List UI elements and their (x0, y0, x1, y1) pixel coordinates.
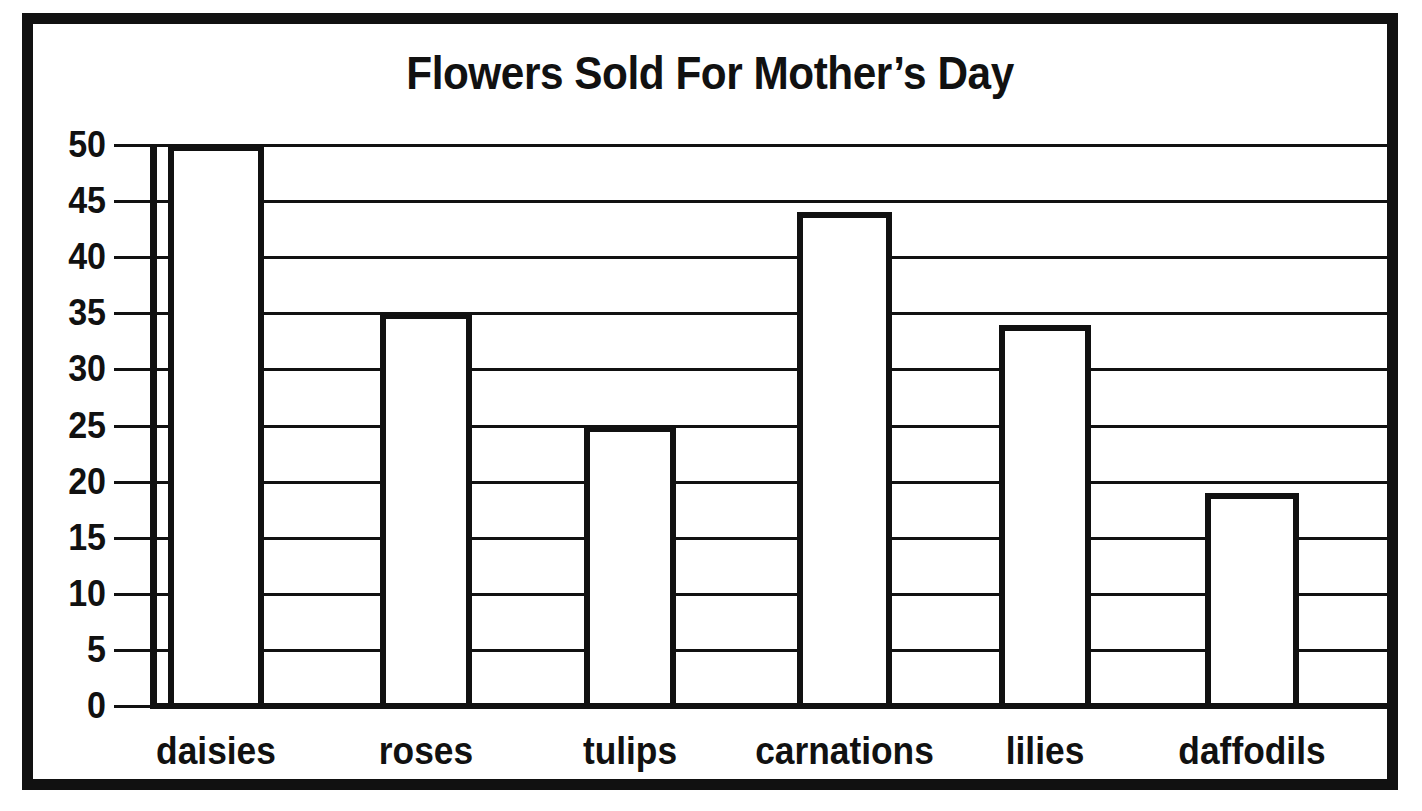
y-axis-tick-label: 35 (34, 294, 106, 331)
y-axis-tick-label: 45 (34, 182, 106, 219)
y-axis-tick-label: 20 (34, 463, 106, 500)
y-axis-tick-label: 15 (34, 519, 106, 556)
bar-roses (380, 313, 472, 709)
y-axis-line (150, 145, 157, 709)
y-axis-tick-label: 5 (34, 631, 106, 668)
gridline (150, 312, 1387, 315)
y-axis-tick (114, 593, 150, 596)
bar-daisies (168, 145, 264, 709)
bar-tulips (584, 426, 676, 710)
y-axis-tick (114, 649, 150, 652)
x-axis-label-lilies: lilies (937, 732, 1153, 770)
y-axis-tick-label: 10 (34, 575, 106, 612)
gridline (150, 425, 1387, 428)
x-axis-label-daisies: daisies (106, 732, 325, 770)
x-axis-baseline (150, 703, 1387, 709)
y-axis-tick (114, 368, 150, 371)
y-axis-tick (114, 200, 150, 203)
y-axis-tick (114, 537, 150, 540)
y-axis-tick-label: 25 (34, 407, 106, 444)
x-axis-label-roses: roses (318, 732, 534, 770)
y-axis-tick (114, 144, 150, 147)
y-axis-tick-label: 0 (34, 687, 106, 724)
plot-area: 05101520253035404550 daisiesrosestulipsc… (33, 24, 1387, 779)
x-axis-label-daffodils: daffodils (1143, 732, 1361, 770)
gridline (150, 593, 1387, 596)
gridline (150, 481, 1387, 484)
y-axis-tick (114, 256, 150, 259)
gridline (150, 256, 1387, 259)
y-axis-tick-label: 50 (34, 126, 106, 163)
y-axis-tick-label: 40 (34, 238, 106, 275)
y-axis-tick (114, 481, 150, 484)
bar-daffodils (1205, 493, 1299, 709)
bar-carnations (797, 212, 892, 709)
y-axis-tick-label: 30 (34, 350, 106, 387)
gridline (150, 144, 1387, 147)
y-axis-tick (114, 705, 150, 708)
gridline (150, 537, 1387, 540)
gridline (150, 200, 1387, 203)
x-axis-label-tulips: tulips (522, 732, 738, 770)
chart-frame: Flowers Sold For Mother’s Day 0510152025… (22, 13, 1398, 790)
x-axis-label-carnations: carnations (735, 732, 954, 770)
y-axis-tick (114, 425, 150, 428)
gridline (150, 649, 1387, 652)
bar-lilies (999, 325, 1091, 709)
gridline (150, 368, 1387, 371)
y-axis-tick (114, 312, 150, 315)
